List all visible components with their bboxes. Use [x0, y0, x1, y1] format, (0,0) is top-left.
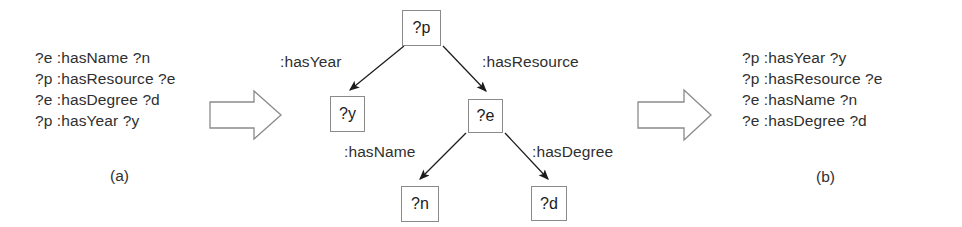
tree-node-d[interactable]: ?d	[531, 186, 567, 221]
edge-e-to-n	[420, 133, 466, 179]
edge-label-hasdegree: :hasDegree	[532, 143, 613, 161]
triple-line: ?e :hasDegree ?d	[742, 110, 883, 131]
tree-node-y[interactable]: ?y	[330, 96, 365, 132]
edge-p-to-e	[443, 46, 486, 91]
tree-node-e[interactable]: ?e	[468, 99, 503, 133]
edge-label-hasname: :hasName	[344, 143, 415, 161]
edge-label-hasresource: :hasResource	[482, 53, 579, 71]
triple-line: ?p :hasResource ?e	[35, 68, 176, 89]
right-transform-arrow	[636, 86, 714, 148]
subfigure-caption-a: (a)	[110, 167, 129, 185]
edge-label-hasyear: :hasYear	[280, 53, 341, 71]
triple-line: ?p :hasResource ?e	[742, 68, 883, 89]
triple-line: ?e :hasDegree ?d	[35, 89, 176, 110]
triple-line: ?e :hasName ?n	[35, 47, 176, 68]
triple-pattern-list-b: ?p :hasYear ?y ?p :hasResource ?e ?e :ha…	[742, 47, 883, 131]
edge-p-to-y	[350, 46, 404, 90]
triple-pattern-list-a: ?e :hasName ?n ?p :hasResource ?e ?e :ha…	[35, 47, 176, 131]
tree-node-p[interactable]: ?p	[402, 10, 441, 46]
figure-root: ?e :hasName ?n ?p :hasResource ?e ?e :ha…	[0, 0, 962, 227]
subfigure-caption-b: (b)	[816, 168, 835, 186]
query-tree-graph	[270, 0, 650, 227]
triple-line: ?e :hasName ?n	[742, 89, 883, 110]
triple-line: ?p :hasYear ?y	[742, 47, 883, 68]
triple-line: ?p :hasYear ?y	[35, 110, 176, 131]
tree-node-n[interactable]: ?n	[401, 186, 439, 222]
